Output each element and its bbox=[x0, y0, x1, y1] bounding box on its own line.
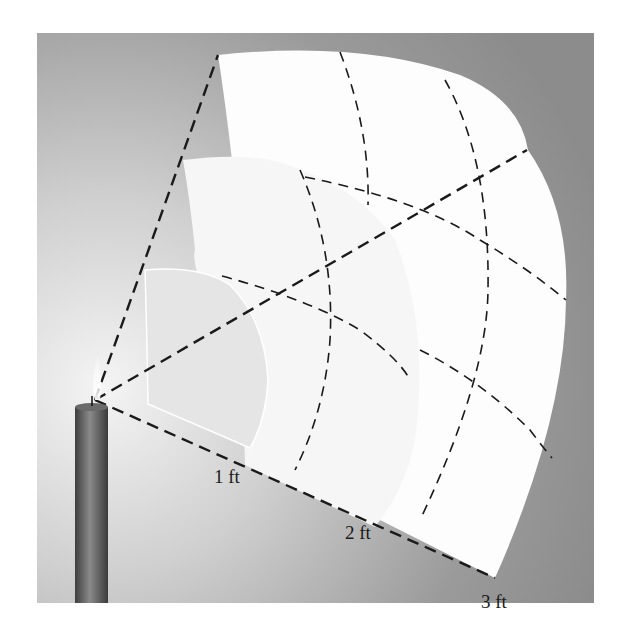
label-2ft: 2 ft bbox=[345, 522, 372, 543]
inverse-square-diagram: 1 ft 2 ft 3 ft bbox=[0, 0, 627, 641]
label-3ft: 3 ft bbox=[481, 591, 508, 612]
candle bbox=[75, 396, 108, 603]
label-1ft: 1 ft bbox=[214, 466, 241, 487]
